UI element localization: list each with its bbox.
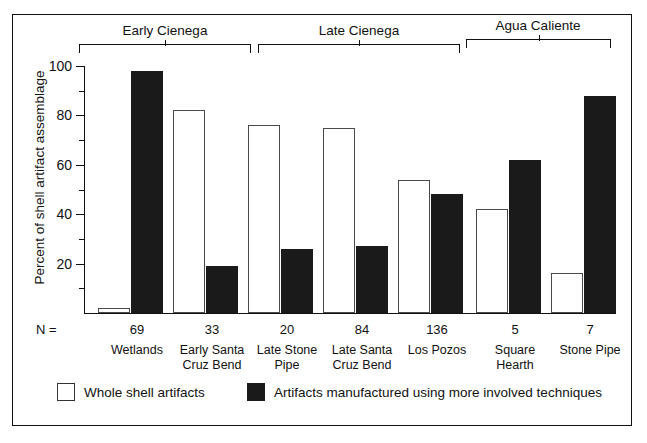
x-label-n: 136	[393, 322, 481, 337]
group-title-agua-caliente: Agua Caliente	[463, 18, 613, 34]
x-label-site-line2: Hearth	[471, 358, 559, 373]
x-label-stone-pipe: 7 Stone Pipe	[546, 322, 634, 358]
legend-swatch-white-icon	[57, 383, 75, 401]
bracket-nub-icon	[165, 40, 166, 46]
y-tick-100	[76, 66, 84, 67]
group-bracket-late-cienega	[258, 44, 460, 53]
plot-area	[84, 66, 616, 313]
x-label-site-line2: Cruz Bend	[318, 358, 406, 373]
bar-manufactured-early-santa-cruz-bend	[206, 266, 238, 313]
bracket-nub-icon	[359, 40, 360, 46]
y-tick-20	[76, 264, 84, 265]
n-prefix-label: N =	[36, 322, 57, 337]
chart-legend: Whole shell artifacts Artifacts manufact…	[0, 383, 647, 409]
group-title-early-cienega: Early Cienega	[76, 23, 254, 39]
legend-label-whole: Whole shell artifacts	[84, 385, 205, 400]
legend-swatch-black-icon	[247, 383, 265, 401]
x-label-n: 7	[546, 322, 634, 337]
y-tick-40	[76, 214, 84, 215]
bar-whole-late-stone-pipe	[248, 125, 280, 313]
x-label-los-pozos: 136 Los Pozos	[393, 322, 481, 358]
legend-label-manufactured: Artifacts manufactured using more involv…	[274, 385, 602, 400]
x-axis-line	[84, 313, 616, 314]
y-axis-title: Percent of shell artifact assemblage	[32, 53, 47, 303]
bar-whole-late-santa-cruz-bend	[323, 128, 355, 313]
bar-manufactured-late-santa-cruz-bend	[356, 246, 388, 313]
bracket-nub-icon	[539, 35, 540, 41]
y-tick-80	[76, 115, 84, 116]
bar-whole-los-pozos	[398, 180, 430, 313]
x-label-site-line1: Los Pozos	[393, 343, 481, 358]
bar-whole-stone-pipe	[551, 273, 583, 313]
bar-manufactured-los-pozos	[431, 194, 463, 313]
legend-item-manufactured-artifacts: Artifacts manufactured using more involv…	[247, 383, 602, 401]
group-bracket-agua-caliente	[466, 39, 611, 48]
legend-item-whole-shell-artifacts: Whole shell artifacts	[57, 383, 205, 401]
bar-whole-early-santa-cruz-bend	[173, 110, 205, 313]
bar-manufactured-late-stone-pipe	[281, 249, 313, 313]
group-title-late-cienega: Late Cienega	[255, 23, 463, 39]
bar-whole-wetlands	[98, 308, 130, 313]
y-tick-60	[76, 165, 84, 166]
group-bracket-early-cienega	[79, 44, 251, 53]
bar-manufactured-square-hearth	[509, 160, 541, 313]
bar-manufactured-stone-pipe	[584, 96, 616, 313]
x-label-site-line1: Stone Pipe	[546, 343, 634, 358]
chart-figure: Early Cienega Late Cienega Agua Caliente…	[0, 0, 647, 443]
bar-manufactured-wetlands	[131, 71, 163, 313]
bar-whole-square-hearth	[476, 209, 508, 313]
